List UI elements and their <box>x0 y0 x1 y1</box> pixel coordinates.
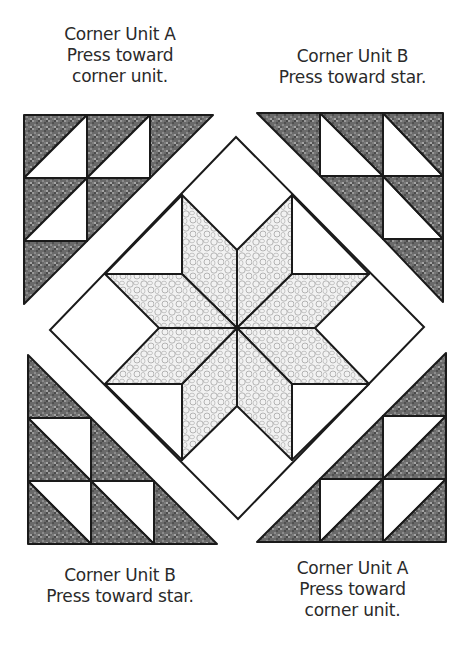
quilt-block-diagram <box>0 0 465 668</box>
